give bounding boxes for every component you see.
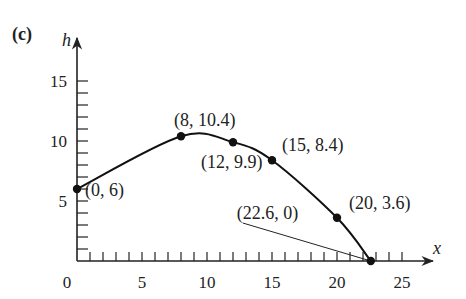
y-tick-label: 5 — [59, 192, 68, 211]
x-tick-label: 15 — [264, 273, 281, 292]
trajectory-chart: (c) 051015202551015 (0, 6)(8, 10.4)(12, … — [0, 0, 466, 299]
data-point — [367, 257, 375, 265]
data-point — [229, 138, 237, 146]
x-tick-label: 20 — [329, 273, 346, 292]
point-label: (22.6, 0) — [237, 203, 298, 224]
point-label: (8, 10.4) — [174, 110, 236, 131]
y-axis-label: h — [62, 30, 71, 50]
x-axis-label: x — [432, 238, 441, 258]
x-tick-label: 0 — [63, 273, 72, 292]
panel-label: (c) — [12, 24, 32, 45]
annotation-leader-line — [243, 223, 371, 261]
y-tick-label: 15 — [50, 72, 67, 91]
data-point — [177, 132, 185, 140]
x-tick-label: 10 — [199, 273, 216, 292]
data-point — [73, 185, 81, 193]
data-point — [333, 214, 341, 222]
point-labels: (0, 6)(8, 10.4)(12, 9.9)(15, 8.4)(20, 3.… — [85, 110, 411, 224]
y-tick-label: 10 — [50, 132, 67, 151]
point-label: (15, 8.4) — [282, 135, 344, 156]
x-tick-label: 5 — [138, 273, 147, 292]
data-point — [268, 156, 276, 164]
x-tick-label: 25 — [394, 273, 411, 292]
point-label: (20, 3.6) — [349, 193, 411, 214]
point-label: (12, 9.9) — [201, 152, 263, 173]
point-label: (0, 6) — [85, 180, 124, 201]
